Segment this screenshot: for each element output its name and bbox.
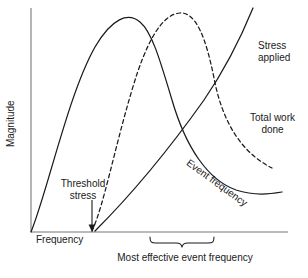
curve-label-stress-applied-line1: Stress: [258, 40, 286, 51]
curve-label-total-work-done-line2: done: [261, 124, 283, 135]
most-effective-range-caption: Most effective event frequency: [100, 252, 270, 264]
threshold-stress-arrow: [89, 200, 96, 232]
curve-label-total-work-done: Total workdone: [250, 112, 295, 135]
y-axis-label: Magnitude: [5, 94, 17, 154]
figure-container: Magnitude Frequency Stressapplied Total …: [0, 0, 308, 278]
curve-label-stress-applied-line2: applied: [258, 52, 290, 63]
curve-label-stress-applied: Stressapplied: [258, 40, 290, 63]
threshold-stress-label-line2: stress: [70, 190, 97, 201]
threshold-stress-label-line1: Threshold: [61, 178, 105, 189]
x-axis-label: Frequency: [36, 234, 83, 246]
curve-label-total-work-done-line1: Total work: [250, 112, 295, 123]
threshold-stress-label: Thresholdstress: [52, 178, 114, 201]
most-effective-range-brace: [150, 237, 214, 247]
